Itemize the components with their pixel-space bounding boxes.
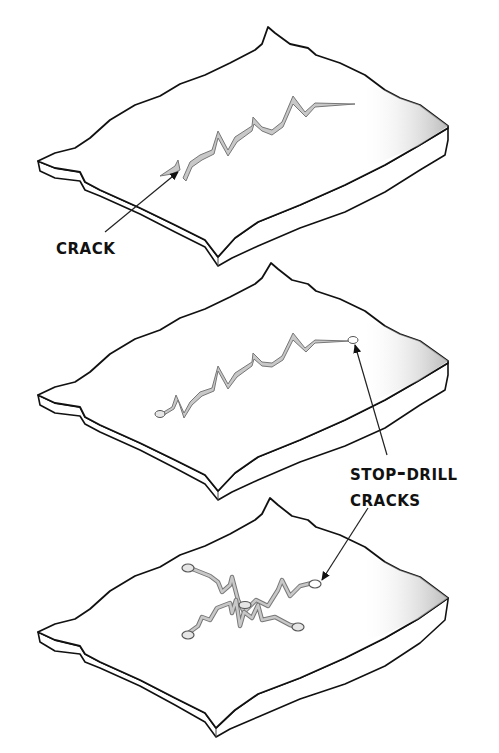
stop-drill-label-line2: Cracks <box>350 486 458 512</box>
crack-label-text: Crack <box>56 234 115 259</box>
stop-drill-diagram <box>0 0 499 753</box>
crack-label: Crack <box>56 236 115 258</box>
plate-1 <box>38 27 448 266</box>
stop-drill-label: Stop-Drill Cracks <box>350 460 458 512</box>
stop-drill-hole-3d <box>292 623 304 631</box>
stop-drill-hole-3a <box>182 564 194 572</box>
plate-3 <box>38 498 448 737</box>
stop-drill-label-line1: Stop-Drill <box>350 460 458 486</box>
stop-drill-hole-3c <box>182 631 194 639</box>
stop-drill-hole-2a <box>155 411 165 418</box>
stop-drill-hole-3b <box>309 580 321 588</box>
stop-drill-hole-2b <box>348 337 358 344</box>
stop-drill-hole-3-center <box>239 602 251 609</box>
